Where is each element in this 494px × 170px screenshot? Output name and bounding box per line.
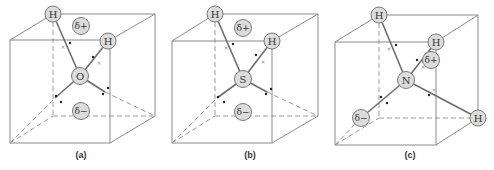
svg-text:δ−: δ− <box>237 107 250 117</box>
partial-positive-charge: δ+ <box>235 20 252 37</box>
panel-label-a: (a) <box>76 150 87 160</box>
partial-negative-charge: δ− <box>353 110 370 127</box>
svg-text:H: H <box>474 113 483 124</box>
svg-text:H: H <box>49 9 58 20</box>
partial-positive-charge: δ+ <box>423 52 440 69</box>
hydrogen-atom: H <box>470 110 486 126</box>
partial-positive-charge: δ+ <box>73 18 90 35</box>
partial-negative-charge: δ− <box>73 103 90 120</box>
svg-text:×: × <box>260 58 265 65</box>
hydrogen-atom: H <box>264 33 280 49</box>
svg-text:δ−: δ− <box>75 106 88 116</box>
panel-label-c: (c) <box>405 150 416 160</box>
svg-text:×: × <box>386 45 391 52</box>
svg-text:S: S <box>240 74 247 85</box>
svg-text:δ−: δ− <box>355 113 368 123</box>
molecular-geometry-diagram: × × H H O δ+ δ− <box>0 0 494 170</box>
panel-label-b: (b) <box>244 150 256 160</box>
svg-text:H: H <box>104 36 113 47</box>
svg-text:H: H <box>375 10 384 21</box>
svg-text:N: N <box>402 75 411 86</box>
hydrogen-atom: H <box>100 33 116 49</box>
svg-text:δ+: δ+ <box>75 21 88 31</box>
svg-text:×: × <box>96 59 101 66</box>
svg-text:×: × <box>60 43 65 50</box>
svg-text:δ+: δ+ <box>425 55 438 65</box>
hydrogen-atom: H <box>45 6 61 22</box>
svg-text:H: H <box>211 9 220 20</box>
nitrogen-atom: N <box>398 72 415 89</box>
svg-text:δ+: δ+ <box>237 23 250 33</box>
hydrogen-atom: H <box>371 7 387 23</box>
oxygen-atom: O <box>72 68 89 85</box>
svg-text:H: H <box>432 37 441 48</box>
panel-c: × × × H H H N δ+ δ− <box>335 7 486 145</box>
svg-text:O: O <box>76 71 84 82</box>
hydrogen-atom: H <box>207 6 223 22</box>
panel-b: × × H H S δ+ δ− <box>172 6 318 143</box>
svg-text:H: H <box>268 36 277 47</box>
panel-a: × × H H O δ+ δ− <box>10 6 155 143</box>
svg-text:×: × <box>431 86 436 93</box>
sulfur-atom: S <box>235 71 252 88</box>
svg-text:×: × <box>223 44 228 51</box>
hydrogen-atom: H <box>428 34 444 50</box>
partial-negative-charge: δ− <box>235 104 252 121</box>
